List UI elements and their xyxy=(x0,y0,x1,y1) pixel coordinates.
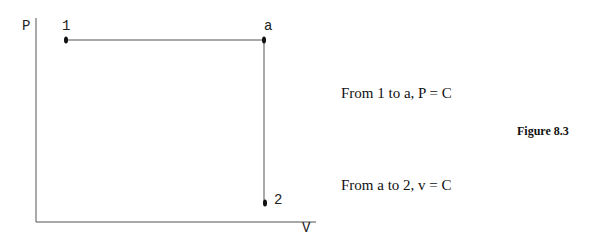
point-a-label: a xyxy=(264,18,272,34)
pv-diagram xyxy=(0,0,595,249)
point-2-label: 2 xyxy=(274,192,282,208)
point-a-marker xyxy=(262,37,266,44)
point-1-label: 1 xyxy=(62,18,70,34)
point-1-marker xyxy=(64,37,68,44)
process-a-to-2-text: From a to 2, v = C xyxy=(341,177,452,194)
figure-caption: Figure 8.3 xyxy=(517,124,569,139)
x-axis-label: V xyxy=(302,220,310,236)
y-axis-label: P xyxy=(22,18,30,34)
point-2-marker xyxy=(263,200,267,207)
process-1-to-a-text: From 1 to a, P = C xyxy=(341,85,452,102)
